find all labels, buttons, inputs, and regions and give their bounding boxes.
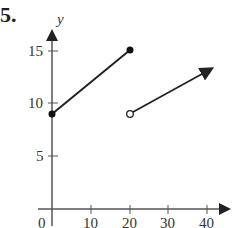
x-tick-20: 20 xyxy=(122,215,137,228)
segment-1 xyxy=(52,50,130,114)
closed-dot-start xyxy=(49,111,56,118)
segment-2 xyxy=(133,69,211,112)
y-axis-label: y xyxy=(55,11,64,27)
x-tick-40: 40 xyxy=(199,215,214,228)
x-tick-0: 0 xyxy=(38,215,46,228)
y-tick-5: 5 xyxy=(36,148,44,164)
y-tick-15: 15 xyxy=(28,43,43,59)
graph: y 15 10 5 0 10 20 30 40 xyxy=(0,0,234,228)
x-tick-30: 30 xyxy=(160,215,175,228)
y-tick-10: 10 xyxy=(28,95,43,111)
x-tick-10: 10 xyxy=(83,215,98,228)
closed-dot-end xyxy=(127,47,134,54)
open-dot xyxy=(127,111,134,118)
